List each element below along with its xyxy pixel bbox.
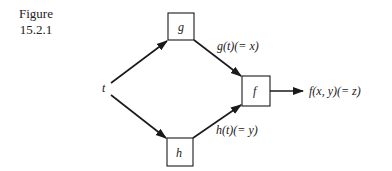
output-label-f-of-xy: f(x, y)(= z) [309,84,361,98]
input-variable-t: t [102,81,106,95]
edge-label-h-of-t: h(t)(= y) [216,123,258,137]
edge-t-to-g [111,41,167,83]
node-h-label: h [176,146,182,160]
node-f: f [242,76,270,106]
edge-label-g-of-t: g(t)(= x) [217,39,259,53]
node-g-label: g [178,20,184,34]
node-g: g [168,13,194,40]
node-h: h [167,138,193,166]
edge-t-to-h [111,95,166,138]
composition-diagram: t g g(t)(= x) h h(t)(= y) f f(x, y)(= z) [0,0,392,171]
